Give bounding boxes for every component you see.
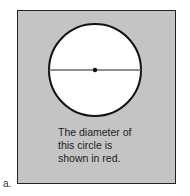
caption-line: shown in red. bbox=[58, 152, 132, 165]
caption: The diameter of this circle is shown in … bbox=[58, 126, 132, 165]
circle-diagram bbox=[0, 0, 190, 196]
figure-label: a. bbox=[3, 178, 11, 189]
center-point bbox=[93, 68, 97, 72]
caption-line: this circle is bbox=[58, 139, 132, 152]
caption-line: The diameter of bbox=[58, 126, 132, 139]
